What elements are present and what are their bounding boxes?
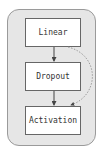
edges	[0, 0, 103, 156]
edge-linear-activation-skip	[68, 47, 92, 105]
